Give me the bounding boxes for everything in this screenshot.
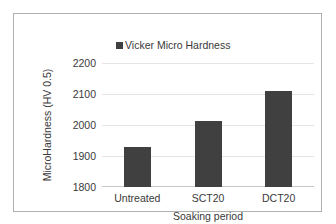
- y-axis-title: MicroHardness (HV 0.5): [40, 63, 54, 187]
- chart-frame: Vicker Micro Hardness 220021002000190018…: [13, 13, 322, 212]
- y-tick-label: 2000: [73, 119, 96, 131]
- y-tick-label: 1800: [73, 181, 96, 193]
- plot-area: 22002100200019001800 UntreatedSCT20DCT20: [102, 63, 314, 187]
- x-tick-label: SCT20: [192, 192, 225, 204]
- y-tick-label: 2100: [73, 88, 96, 100]
- x-axis-title: Soaking period: [102, 210, 314, 222]
- x-tick-label: Untreated: [114, 192, 160, 204]
- legend-label: Vicker Micro Hardness: [125, 40, 230, 51]
- chart-legend: Vicker Micro Hardness: [116, 38, 230, 52]
- chart-figure: Vicker Micro Hardness 220021002000190018…: [0, 0, 336, 224]
- legend-swatch-icon: [116, 42, 123, 49]
- bar-series: [102, 63, 314, 187]
- bar: [124, 147, 151, 187]
- x-tick-label: DCT20: [262, 192, 295, 204]
- y-tick-label: 1900: [73, 150, 96, 162]
- bar: [265, 91, 292, 187]
- y-tick-label: 2200: [73, 57, 96, 69]
- bar: [195, 121, 222, 187]
